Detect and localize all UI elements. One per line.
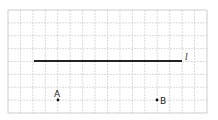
line-label: l [185, 52, 188, 62]
point-b-label: B [160, 96, 166, 106]
grid-diagram: l A B [0, 0, 218, 120]
point-a-label: A [54, 89, 61, 99]
point-b-dot [156, 99, 159, 102]
point-a-dot [57, 99, 60, 102]
